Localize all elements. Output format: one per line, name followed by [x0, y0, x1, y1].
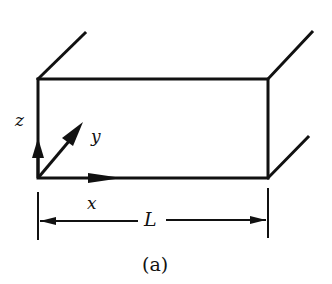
dimension-label-L: L	[144, 210, 157, 229]
depth-edge-bottom-right	[268, 137, 308, 178]
x-axis-label: x	[87, 195, 97, 212]
z-arrowhead-icon	[32, 138, 44, 158]
depth-edge-top-right	[268, 32, 312, 79]
figure-caption: (a)	[142, 255, 168, 274]
y-axis-arrow	[38, 140, 70, 178]
y-axis-label: y	[91, 128, 101, 145]
box-drawing	[0, 0, 332, 284]
dimension-arrowhead-right-icon	[250, 216, 266, 224]
depth-edge-top-left	[38, 33, 85, 79]
z-axis-label: z	[15, 112, 24, 129]
dimension-arrowhead-left-icon	[40, 217, 56, 225]
y-arrowhead-icon	[62, 122, 83, 146]
diagram-figure: z y x L (a)	[0, 0, 332, 284]
front-face	[38, 79, 268, 178]
x-arrowhead-icon	[88, 173, 122, 183]
